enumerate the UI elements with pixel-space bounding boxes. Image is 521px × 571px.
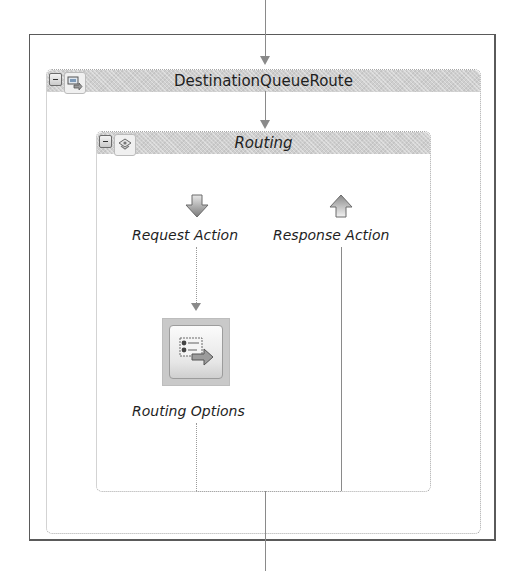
down-arrow-icon[interactable]: [185, 194, 209, 222]
collapse-button[interactable]: [49, 73, 62, 86]
destination-queue-route-header[interactable]: DestinationQueueRoute: [47, 70, 480, 92]
routing-options-icon: [169, 325, 223, 379]
routing-title: Routing: [234, 134, 292, 152]
routing-options-out-connector: [196, 423, 197, 491]
request-connector: [196, 247, 197, 305]
response-connector: [341, 247, 342, 491]
response-action-label[interactable]: Response Action: [273, 227, 389, 243]
collapse-button[interactable]: [99, 135, 112, 148]
routing-bottom-join: [196, 491, 341, 492]
destination-queue-route-title: DestinationQueueRoute: [174, 72, 353, 90]
routing-header[interactable]: Routing: [97, 132, 430, 154]
stage-connector-arrowhead: [260, 120, 270, 129]
request-action-label[interactable]: Request Action: [132, 227, 238, 243]
routing-exit-connector: [265, 491, 266, 571]
up-arrow-icon[interactable]: [329, 194, 353, 222]
incoming-connector: [265, 0, 266, 56]
routing-stage-icon: [114, 134, 136, 156]
routing-options-node[interactable]: [162, 318, 230, 386]
routing-stage[interactable]: Routing: [96, 131, 431, 492]
routing-options-label[interactable]: Routing Options: [132, 403, 245, 419]
pipeline-stage-icon: [64, 72, 86, 94]
request-arrowhead: [191, 303, 201, 311]
stage-connector: [265, 91, 266, 121]
incoming-arrowhead: [260, 56, 270, 65]
